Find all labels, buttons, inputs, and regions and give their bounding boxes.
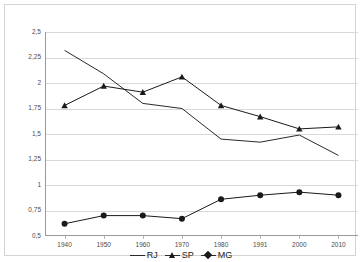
data-point-marker-sp — [61, 102, 67, 108]
line-swatch-icon — [130, 251, 145, 260]
diamond-swatch-icon — [201, 251, 216, 260]
data-point-marker-mg — [140, 213, 146, 219]
chart-frame: 2,52,2521,751,51,2510,750,5 194019501960… — [4, 4, 356, 256]
series-plot — [45, 32, 358, 236]
data-point-marker-mg — [62, 221, 68, 227]
y-axis-tick-label: 1,75 — [28, 105, 41, 112]
triangle-swatch-icon — [165, 251, 180, 260]
data-point-marker-sp — [179, 74, 185, 80]
plot-area — [45, 32, 358, 236]
legend-label: RJ — [147, 251, 158, 260]
y-axis-tick-label: 2,5 — [32, 29, 41, 36]
series-line-mg — [65, 192, 339, 224]
y-axis-tick-label: 0,75 — [28, 207, 41, 214]
series-line-rj — [65, 50, 339, 155]
y-axis-tick-label: 0,5 — [32, 233, 41, 240]
y-axis-tick-label: 2 — [37, 80, 41, 87]
data-point-marker-mg — [257, 192, 263, 198]
y-axis-tick-label: 1,5 — [32, 131, 41, 138]
legend-item-mg[interactable]: MG — [201, 251, 233, 260]
legend-item-rj[interactable]: RJ — [130, 251, 158, 260]
y-axis-tick-label: 2,25 — [28, 54, 41, 61]
chart-legend: RJSPMG — [5, 248, 357, 262]
y-axis-tick-label: 1 — [37, 182, 41, 189]
data-point-marker-mg — [335, 192, 341, 198]
legend-label: SP — [182, 251, 194, 260]
data-point-marker-sp — [218, 102, 224, 108]
series-line-sp — [65, 77, 339, 129]
data-point-marker-sp — [100, 83, 106, 89]
data-point-marker-mg — [179, 216, 185, 222]
y-axis-tick-label: 1,25 — [28, 156, 41, 163]
y-axis-tick-labels: 2,52,2521,751,51,2510,750,5 — [5, 32, 41, 236]
data-point-marker-mg — [101, 213, 107, 219]
legend-item-sp[interactable]: SP — [165, 251, 194, 260]
data-point-marker-mg — [218, 196, 224, 202]
data-point-marker-mg — [296, 189, 302, 195]
legend-label: MG — [218, 251, 233, 260]
